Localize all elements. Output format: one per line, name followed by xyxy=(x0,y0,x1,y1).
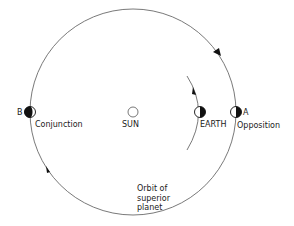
label-a: A xyxy=(243,108,248,117)
orbit-label-line-3: planet xyxy=(137,203,170,213)
label-conjunction: Conjunction xyxy=(35,120,83,129)
label-orbit-of-superior-planet: Orbit of superior planet xyxy=(137,184,170,213)
label-opposition: Opposition xyxy=(237,121,280,130)
orbit-label-line-1: Orbit of xyxy=(137,184,170,194)
orbit-arrow-lower-left-icon xyxy=(46,166,50,173)
earth-orbit-arrow-icon xyxy=(192,87,196,95)
planet-a-icon xyxy=(231,107,242,118)
orbit-label-line-2: superior xyxy=(137,194,170,204)
label-earth: EARTH xyxy=(200,120,226,129)
earth-icon xyxy=(195,107,206,118)
label-b: B xyxy=(17,108,23,117)
label-sun: SUN xyxy=(122,120,139,129)
sun-icon xyxy=(128,107,138,117)
planet-b-icon xyxy=(25,107,36,118)
